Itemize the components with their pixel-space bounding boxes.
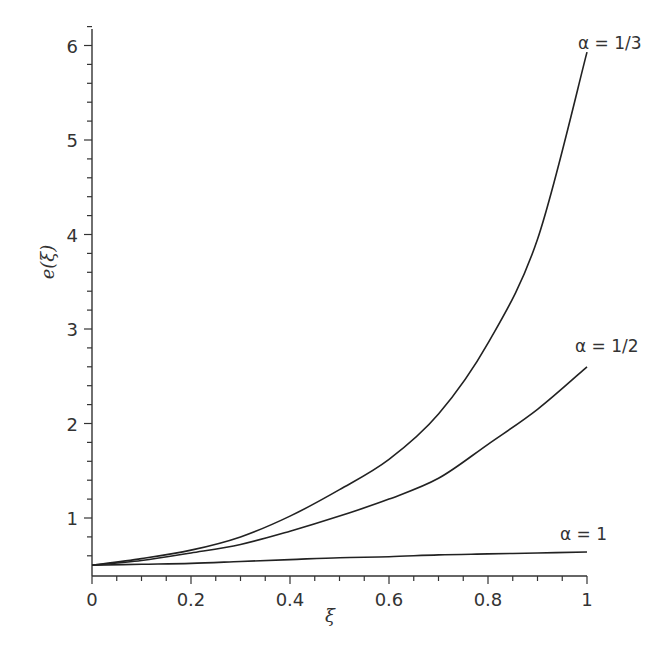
axes	[84, 27, 587, 584]
y-tick-label: 2	[67, 414, 78, 435]
y-tick-label: 1	[67, 508, 78, 529]
x-tick-label: 1	[581, 589, 592, 610]
x-axis-title: ξ	[325, 605, 336, 626]
curves	[92, 52, 587, 565]
labels: 12345600.20.40.60.81ξe(ξ)α = 1/3α = 1/2α…	[37, 33, 642, 626]
series-label: α = 1/3	[578, 33, 642, 53]
series-curve	[92, 52, 587, 565]
series-label: α = 1	[560, 524, 607, 544]
x-tick-label: 0.4	[276, 589, 305, 610]
y-axis-title: e(ξ)	[37, 245, 58, 280]
y-tick-label: 5	[67, 130, 78, 151]
chart: 12345600.20.40.60.81ξe(ξ)α = 1/3α = 1/2α…	[0, 0, 666, 660]
y-tick-label: 6	[67, 36, 78, 57]
series-curve	[92, 367, 587, 565]
y-tick-label: 3	[67, 319, 78, 340]
series-label: α = 1/2	[575, 336, 639, 356]
x-tick-label: 0.6	[375, 589, 404, 610]
x-tick-label: 0.2	[177, 589, 206, 610]
x-tick-label: 0	[86, 589, 97, 610]
y-tick-label: 4	[67, 225, 78, 246]
x-tick-label: 0.8	[474, 589, 503, 610]
